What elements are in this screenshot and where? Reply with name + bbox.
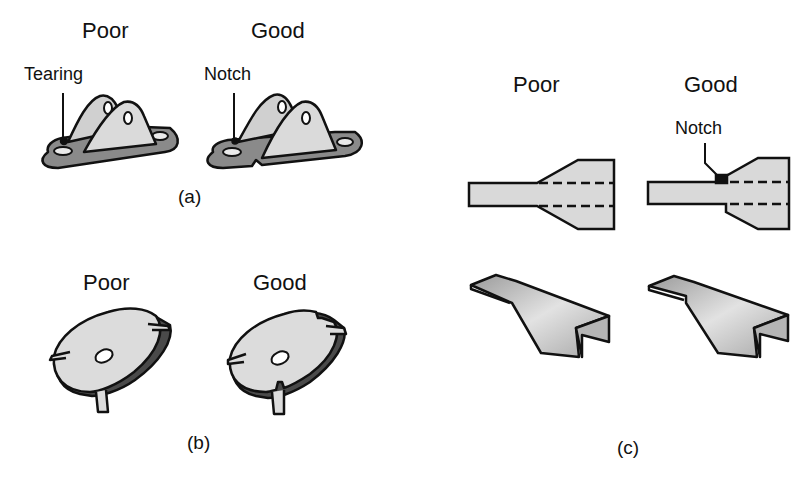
disk-poor [50, 309, 171, 412]
panel-b-caption: (b) [187, 432, 210, 454]
channel-good [649, 276, 788, 357]
panel-b-good-heading: Good [253, 270, 307, 296]
notch-leader-line-c [705, 143, 718, 176]
panel-a-caption: (a) [178, 186, 201, 208]
disk-good [228, 311, 346, 414]
tearing-label: Tearing [24, 64, 83, 85]
panel-b-poor-heading: Poor [83, 270, 129, 296]
panel-c-caption: (c) [617, 437, 639, 459]
panel-a-poor-heading: Poor [82, 18, 128, 44]
channel-poor [471, 275, 609, 357]
panel-a-good-heading: Good [251, 18, 305, 44]
flat-pattern-poor [469, 160, 614, 229]
panel-c-good-heading: Good [684, 72, 738, 98]
panel-c-poor-heading: Poor [513, 72, 559, 98]
bracket-good [208, 95, 362, 168]
flat-pattern-good [648, 158, 789, 229]
notch-label-c: Notch [675, 118, 722, 139]
notch-label-a: Notch [204, 64, 251, 85]
